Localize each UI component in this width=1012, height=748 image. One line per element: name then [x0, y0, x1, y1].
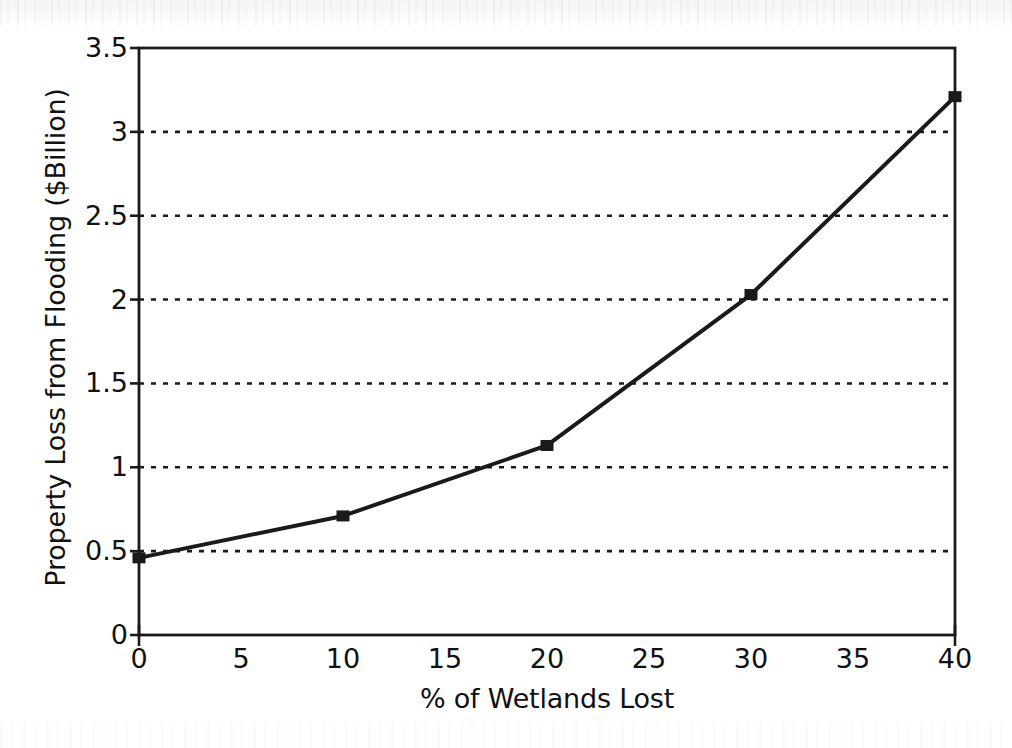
- data-point-marker: [133, 552, 146, 563]
- data-point-marker: [337, 510, 350, 521]
- data-point-marker: [949, 91, 962, 102]
- x-tick-label: 10: [303, 645, 383, 672]
- series-line: [139, 97, 955, 558]
- plot-area: [0, 0, 1012, 748]
- data-point-markers: [133, 91, 962, 563]
- x-tick-label: 0: [99, 645, 179, 672]
- line-chart-figure: Property Loss from Flooding ($Billion) 0…: [0, 0, 1012, 748]
- x-tick-label: 25: [609, 645, 689, 672]
- data-series-line: [139, 97, 955, 558]
- gridlines: [139, 132, 955, 551]
- x-tick-label: 15: [405, 645, 485, 672]
- x-tick-label: 5: [201, 645, 281, 672]
- plot-border: [139, 48, 955, 635]
- plot-frame: [139, 48, 955, 635]
- x-tick-label: 35: [813, 645, 893, 672]
- x-tick-label: 40: [915, 645, 995, 672]
- data-point-marker: [541, 440, 554, 451]
- x-tick-label: 30: [711, 645, 791, 672]
- x-tick-label: 20: [507, 645, 587, 672]
- x-axis-title: % of Wetlands Lost: [139, 683, 955, 714]
- data-point-marker: [745, 289, 758, 300]
- x-axis-tick-labels: 0510152025303540: [0, 645, 1012, 685]
